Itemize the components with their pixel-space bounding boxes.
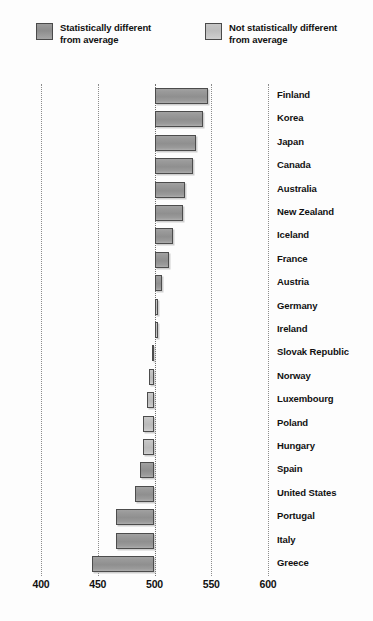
legend-item-statistically-different: Statistically different from average (36, 22, 151, 45)
bar-ireland (155, 322, 158, 338)
bar-australia (155, 182, 186, 198)
bar-germany (155, 299, 158, 315)
bar-row: Greece (0, 553, 373, 576)
bar-row: Poland (0, 413, 373, 436)
bar-row: Spain (0, 459, 373, 482)
country-label-korea: Korea (277, 112, 303, 123)
country-label-australia: Australia (277, 183, 317, 194)
bar-row: Austria (0, 272, 373, 295)
country-label-greece: Greece (277, 557, 309, 568)
bar-row: Finland (0, 85, 373, 108)
legend-swatch-dark-gray-icon (36, 23, 53, 40)
country-label-slovak-republic: Slovak Republic (277, 346, 349, 357)
bar-italy (116, 533, 155, 549)
x-tick-600: 600 (260, 578, 277, 590)
bar-rows: FinlandKoreaJapanCanadaAustraliaNew Zeal… (0, 84, 373, 576)
country-label-ireland: Ireland (277, 323, 307, 334)
bar-portugal (116, 509, 155, 525)
plot-area: FinlandKoreaJapanCanadaAustraliaNew Zeal… (0, 84, 373, 576)
bar-canada (155, 158, 194, 174)
bar-row: Japan (0, 132, 373, 155)
country-label-spain: Spain (277, 463, 302, 474)
country-label-united-states: United States (277, 487, 336, 498)
bar-row: United States (0, 483, 373, 506)
bar-row: New Zealand (0, 202, 373, 225)
bar-row: Ireland (0, 319, 373, 342)
legend-label-statistically-different: Statistically different from average (60, 22, 151, 45)
country-label-portugal: Portugal (277, 510, 315, 521)
bar-row: Portugal (0, 506, 373, 529)
bar-japan (155, 135, 197, 151)
bar-row: Korea (0, 108, 373, 131)
bar-slovak-republic (152, 345, 154, 361)
bar-row: Slovak Republic (0, 342, 373, 365)
bar-norway (149, 369, 155, 385)
country-label-italy: Italy (277, 534, 296, 545)
bar-row: Australia (0, 179, 373, 202)
bar-new-zealand (155, 205, 183, 221)
country-label-iceland: Iceland (277, 229, 309, 240)
country-label-new-zealand: New Zealand (277, 206, 334, 217)
bar-row: France (0, 249, 373, 272)
country-label-canada: Canada (277, 159, 311, 170)
legend-item-not-statistically-different: Not statistically different from average (205, 22, 337, 45)
country-label-luxembourg: Luxembourg (277, 393, 334, 404)
bar-austria (155, 275, 163, 291)
country-label-austria: Austria (277, 276, 309, 287)
chart-figure: Statistically different from average Not… (0, 0, 373, 621)
bar-iceland (155, 228, 173, 244)
bar-row: Norway (0, 366, 373, 389)
bar-row: Italy (0, 530, 373, 553)
bar-hungary (143, 439, 154, 455)
bar-spain (140, 462, 155, 478)
legend-label-not-statistically-different: Not statistically different from average (229, 22, 337, 45)
chart-legend: Statistically different from average Not… (0, 22, 373, 62)
x-axis: 400450500550600 (0, 578, 373, 602)
legend-swatch-light-gray-icon (205, 23, 222, 40)
bar-luxembourg (147, 392, 155, 408)
country-label-norway: Norway (277, 370, 311, 381)
country-label-poland: Poland (277, 417, 308, 428)
bar-row: Luxembourg (0, 389, 373, 412)
country-label-hungary: Hungary (277, 440, 315, 451)
bar-row: Iceland (0, 225, 373, 248)
bar-row: Germany (0, 296, 373, 319)
bar-greece (92, 556, 154, 572)
bar-poland (143, 416, 154, 432)
bar-row: Canada (0, 155, 373, 178)
x-tick-400: 400 (33, 578, 50, 590)
country-label-france: France (277, 253, 308, 264)
x-tick-500: 500 (146, 578, 163, 590)
bar-row: Hungary (0, 436, 373, 459)
bar-finland (155, 88, 208, 104)
country-label-germany: Germany (277, 300, 318, 311)
bar-france (155, 252, 170, 268)
x-tick-450: 450 (89, 578, 106, 590)
country-label-japan: Japan (277, 136, 304, 147)
bar-united-states (135, 486, 154, 502)
country-label-finland: Finland (277, 89, 310, 100)
bar-korea (155, 111, 204, 127)
x-tick-550: 550 (203, 578, 220, 590)
